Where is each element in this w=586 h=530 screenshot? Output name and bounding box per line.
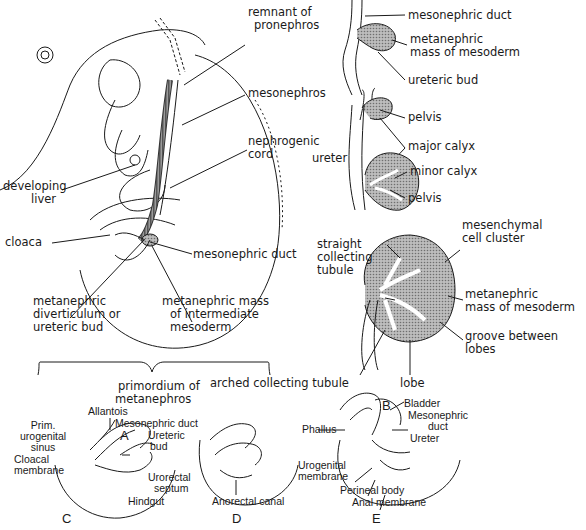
label-cloaca: cloaca [5, 236, 42, 249]
label-phallus: Phallus [302, 424, 336, 435]
panel-letter-b: B [382, 398, 391, 413]
label-pelvis-2: pelvis [408, 192, 442, 205]
label-anal-membrane: Anal membrane [352, 497, 426, 508]
label-hindgut: Hindgut [128, 496, 164, 507]
label-metanephric-mass-b2: metanephric mass of mesoderm [465, 288, 575, 314]
label-prim-urogenital-sinus: Prim. urogenital sinus [20, 420, 66, 453]
panel-letter-c: C [62, 511, 71, 526]
panel-letter-e: E [372, 511, 381, 526]
label-minor-calyx: minor calyx [410, 165, 477, 178]
label-straight-collecting-tubule: straight collecting tubule [317, 238, 372, 277]
label-groove-between-lobes: groove between lobes [465, 330, 558, 356]
panel-d [199, 424, 298, 505]
label-mesonephric-duct-e: Mesonephric duct [408, 410, 468, 432]
label-allantois: Allantois [88, 406, 128, 417]
label-cloacal-membrane: Cloacal membrane [14, 454, 64, 476]
label-urorectal-septum: Urorectal septum [148, 472, 191, 494]
label-bladder: Bladder [404, 398, 440, 409]
label-mesenchymal-cell-cluster: mesenchymal cell cluster [462, 219, 543, 245]
label-metanephric-mass-a: metanephric mass of intermediate mesoder… [162, 295, 269, 334]
label-ureteric-bud-c: Ureteric bud [148, 430, 185, 452]
label-urogenital-membrane: Urogenital membrane [298, 460, 348, 482]
label-ureter-b: ureter [312, 152, 347, 165]
label-ureter-e: Ureter [410, 433, 439, 444]
label-remnant-of-pronephros: remnant of pronephros [248, 6, 319, 32]
label-mesonephros: mesonephros [248, 87, 326, 100]
label-metanephric-diverticulum: metanephric diverticulum or ureteric bud [33, 295, 121, 334]
label-mesonephric-duct-b: mesonephric duct [408, 9, 512, 22]
label-anorectal-canal: Anorectal canal [212, 496, 284, 507]
label-metanephric-mass-b1: metanephric mass of mesoderm [410, 33, 520, 59]
label-mesonephric-duct-a: mesonephric duct [193, 248, 297, 261]
label-perineal-body: Perineal body [340, 485, 404, 496]
label-major-calyx: major calyx [408, 140, 475, 153]
label-developing-liver: developing liver [3, 180, 67, 206]
label-primordium: primordium of metanephros [115, 380, 200, 406]
panel-letter-a: A [120, 428, 129, 443]
label-lobe: lobe [400, 377, 425, 390]
panel-letter-d: D [232, 511, 241, 526]
label-mesonephric-duct-c: Mesonephric duct [115, 418, 198, 429]
label-ureteric-bud: ureteric bud [408, 74, 478, 87]
label-nephrogenic-cord: nephrogenic cord [248, 135, 320, 161]
diagram-artwork [0, 0, 586, 530]
label-arched-collecting-tubule: arched collecting tubule [210, 377, 349, 390]
label-pelvis-1: pelvis [408, 111, 442, 124]
